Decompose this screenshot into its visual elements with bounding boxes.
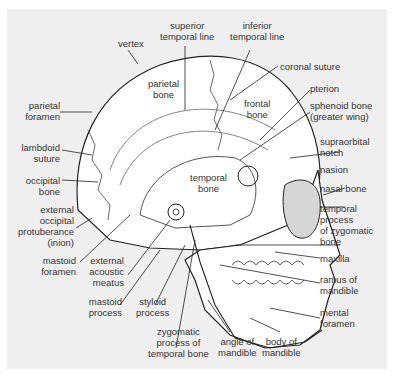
label-mastoid-process: mastoid process [80,296,122,318]
label-ramus-of-mandible: ramus of mandible [320,274,359,296]
label-external-acoustic-meatus: external acoustic meatus [80,255,124,288]
label-nasion: nasion [320,164,348,175]
label-pterion: pterion [310,83,339,94]
label-angle-of-mandible: angle of mandible [218,336,257,358]
orbit-shade [283,180,320,238]
label-mastoid-foramen: mastoid foramen [30,255,76,277]
label-superior-temporal-line: superior temporal line [160,20,214,42]
label-parietal-bone: parietal bone [148,78,179,100]
label-temporal-process-zygomatic: temporal process of zygomatic bone [320,203,373,247]
label-parietal-foramen: parietal foramen [20,100,60,122]
label-zygomatic-process-temporal: zygomatic process of temporal bone [148,326,209,359]
label-inferior-temporal-line: inferior temporal line [230,20,284,42]
label-maxilla: maxilla [320,253,350,264]
label-sphenoid-bone: sphenoid bone (greater wing) [310,100,372,122]
label-external-occipital-protuberance: external occipital protuberance (inion) [6,204,74,248]
label-occipital-bone: occipital bone [16,175,60,197]
label-coronal-suture: coronal suture [280,61,340,72]
label-lambdoid-suture: lambdoid suture [16,142,60,164]
cranium-outline [77,56,320,250]
label-nasal-bone: nasal bone [320,183,366,194]
label-frontal-bone: frontal bone [244,98,270,120]
label-mental-foramen: mental foramen [320,307,355,329]
label-body-of-mandible: body of mandible [262,336,301,358]
label-vertex: vertex [118,38,144,49]
label-styloid-process: styloid process [136,296,169,318]
label-supraorbital-notch: supraorbital notch [320,136,370,158]
label-temporal-bone: temporal bone [190,172,227,194]
